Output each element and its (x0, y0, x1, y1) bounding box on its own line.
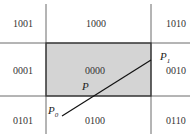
code-right: 0010 (166, 65, 186, 76)
label-p0: P0 (47, 104, 59, 119)
code-top: 1000 (86, 18, 106, 29)
clipping-diagram: 1001 1000 1010 0001 0000 0010 0101 0100 … (0, 0, 196, 140)
code-bottom: 0100 (85, 115, 105, 126)
code-center: 0000 (85, 65, 105, 76)
code-bottom-left: 0101 (13, 115, 33, 126)
label-p1: P1 (159, 50, 170, 65)
code-bottom-right: 0110 (166, 115, 186, 126)
code-left: 0001 (13, 65, 33, 76)
label-p: P (81, 80, 89, 92)
code-top-right: 1010 (166, 18, 186, 29)
code-top-left: 1001 (13, 18, 33, 29)
